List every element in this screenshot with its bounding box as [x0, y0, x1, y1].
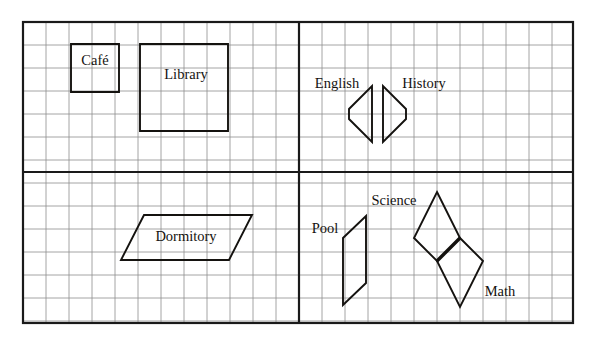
label-science: Science	[371, 192, 416, 208]
label-cafe: Café	[81, 52, 108, 68]
label-english: English	[315, 75, 360, 91]
campus-grid-map: CaféLibraryEnglishHistoryDormitoryPoolSc…	[0, 0, 596, 342]
label-math: Math	[485, 283, 516, 299]
label-dormitory: Dormitory	[155, 228, 217, 244]
label-library: Library	[164, 66, 208, 82]
label-pool: Pool	[312, 220, 339, 236]
map-canvas: CaféLibraryEnglishHistoryDormitoryPoolSc…	[0, 0, 596, 342]
label-history: History	[402, 75, 446, 91]
